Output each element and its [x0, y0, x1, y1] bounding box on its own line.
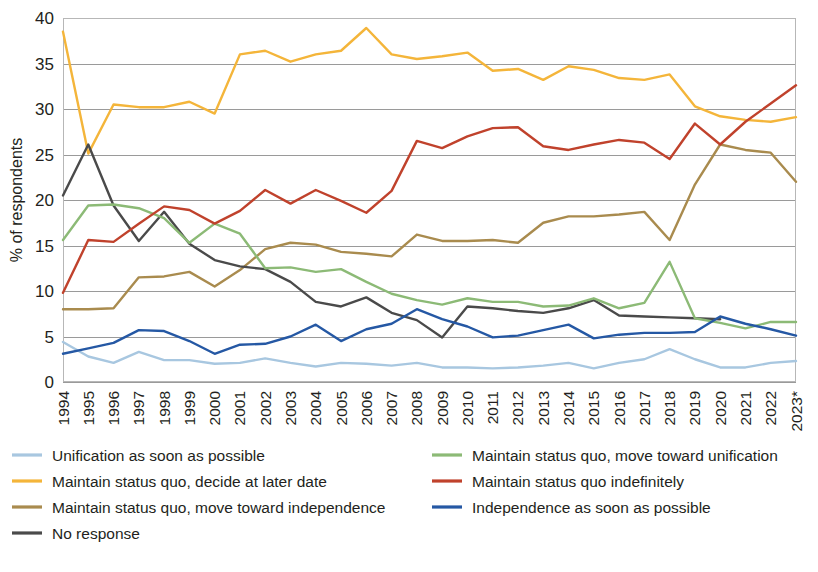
x-axis-tick-label: 2013: [535, 391, 552, 425]
x-axis-tick-label: 2003: [282, 391, 299, 425]
x-axis-tick-label: 2002: [257, 391, 274, 425]
y-axis-tick-labels: 0510152025303540: [35, 9, 54, 392]
legend-item[interactable]: Maintain status quo indefinitely: [432, 473, 684, 490]
x-axis-tick-label: 1994: [55, 391, 72, 426]
x-axis-tick-label: 1996: [105, 391, 122, 425]
legend-item[interactable]: No response: [12, 525, 140, 542]
x-axis-tick-label: 2005: [333, 391, 350, 425]
y-axis-tick-label: 25: [35, 146, 54, 165]
legend-item-label: No response: [52, 525, 140, 542]
legend-item-label: Maintain status quo indefinitely: [472, 473, 684, 490]
legend-item-label: Unification as soon as possible: [52, 447, 265, 464]
y-axis-tick-label: 35: [35, 55, 54, 74]
line-chart: 0510152025303540 19941995199619971998199…: [0, 0, 818, 572]
x-axis-tick-label: 2018: [661, 391, 678, 425]
legend-item[interactable]: Independence as soon as possible: [432, 499, 711, 516]
chart-figure: 0510152025303540 19941995199619971998199…: [0, 0, 818, 572]
x-axis-tick-label: 2014: [560, 391, 577, 426]
y-axis-tick-label: 10: [35, 282, 54, 301]
x-axis-tick-label: 2022: [762, 391, 779, 425]
legend-item[interactable]: Unification as soon as possible: [12, 447, 265, 464]
legend-item-label: Maintain status quo, move toward unifica…: [472, 447, 778, 464]
y-axis-title: % of respondents: [8, 138, 25, 263]
x-axis-tick-labels: 1994199519961997199819992000200120022003…: [55, 391, 805, 432]
x-axis-tick-label: 2006: [358, 391, 375, 425]
x-axis-tick-label: 2004: [307, 391, 324, 426]
chart-legend: Unification as soon as possibleMaintain …: [12, 447, 778, 542]
legend-item-label: Maintain status quo, move toward indepen…: [52, 499, 385, 516]
x-axis-tick-label: 2000: [206, 391, 223, 426]
x-axis-tick-label: 2021: [737, 391, 754, 425]
x-axis-tick-label: 1998: [156, 391, 173, 425]
y-axis-tick-label: 20: [35, 191, 54, 210]
y-axis-title-text: % of respondents: [8, 138, 25, 263]
x-axis-tick-label: 2007: [383, 391, 400, 425]
x-axis-tick-label: 2001: [231, 391, 248, 425]
x-axis-tick-label: 2017: [636, 391, 653, 425]
x-axis-tick-label: 2019: [686, 391, 703, 425]
series-line: Unification as soon as possible: [63, 342, 796, 368]
legend-item[interactable]: Maintain status quo, decide at later dat…: [12, 473, 327, 490]
y-axis-tick-label: 15: [35, 237, 54, 256]
x-axis-tick-label: 2009: [434, 391, 451, 425]
series-line: Independence as soon as possible: [63, 309, 796, 354]
x-axis-tick-label: 1997: [130, 391, 147, 425]
legend-item-label: Maintain status quo, decide at later dat…: [52, 473, 327, 490]
y-axis-tick-label: 0: [45, 373, 54, 392]
legend-item[interactable]: Maintain status quo, move toward indepen…: [12, 499, 385, 516]
series-lines-group: Unification as soon as possibleMaintain …: [63, 28, 796, 368]
y-axis-tick-label: 40: [35, 9, 54, 28]
x-axis-tick-label: 2010: [459, 391, 476, 426]
y-axis-tick-label: 30: [35, 100, 54, 119]
x-axis-tick-label: 1995: [80, 391, 97, 425]
x-axis-tick-label: 2023*: [788, 391, 805, 432]
x-axis-tick-label: 2020: [712, 391, 729, 426]
series-line: Maintain status quo indefinitely: [63, 85, 796, 292]
y-axis-tick-label: 5: [45, 328, 54, 347]
x-axis-tick-label: 2012: [509, 391, 526, 425]
x-axis-tick-label: 2016: [611, 391, 628, 425]
x-axis-tick-label: 2011: [484, 391, 501, 424]
x-axis-tick-label: 2008: [408, 391, 425, 425]
x-axis-tick-label: 1999: [181, 391, 198, 425]
legend-item[interactable]: Maintain status quo, move toward unifica…: [432, 447, 778, 464]
legend-item-label: Independence as soon as possible: [472, 499, 711, 516]
x-axis-tick-label: 2015: [585, 391, 602, 425]
